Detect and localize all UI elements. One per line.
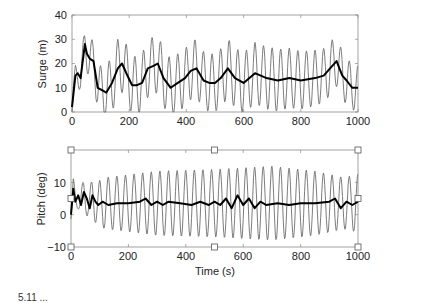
selection-handle[interactable]	[212, 147, 218, 153]
selection-handle[interactable]	[355, 147, 361, 153]
pitch-plot-frame	[71, 150, 358, 247]
surge-ytick-40: 40	[55, 9, 67, 21]
surge-xtick-400: 400	[177, 115, 195, 127]
pitch-xtick-200: 200	[119, 250, 137, 262]
surge-xtick-1000: 1000	[346, 115, 370, 127]
surge-ytick-0: 0	[61, 106, 67, 118]
pitch-xtick-0: 0	[68, 250, 74, 262]
surge-chart: 0 10 20 30 40 0 200 400 600 800 1000 Sur…	[36, 9, 370, 127]
pitch-axis-ticks	[71, 150, 358, 247]
surge-ytick-30: 30	[55, 33, 67, 45]
surge-ytick-10: 10	[55, 82, 67, 94]
surge-xtick-200: 200	[120, 115, 138, 127]
surge-series	[72, 36, 358, 112]
surge-ylabel: Surge (m)	[36, 40, 48, 89]
surge-xtick-0: 0	[69, 115, 75, 127]
pitch-xtick-400: 400	[177, 250, 195, 262]
pitch-ytick-neg10: −10	[47, 241, 66, 253]
surge-ytick-20: 20	[55, 57, 67, 69]
pitch-xtick-1000: 1000	[346, 250, 370, 262]
pitch-ytick-0: 0	[60, 209, 66, 221]
pitch-ytick-10: 10	[54, 177, 66, 189]
surge-xtick-600: 600	[235, 115, 253, 127]
selection-handle[interactable]	[355, 196, 361, 202]
figure-caption: 5.11 ...	[18, 292, 48, 303]
pitch-xtick-600: 600	[234, 250, 252, 262]
time-xlabel: Time (s)	[195, 265, 235, 277]
selection-handle[interactable]	[212, 244, 218, 250]
pitch-chart: −10 0 10 0 200 400 600 800 1000 Pitch (d…	[35, 147, 370, 277]
selection-handle[interactable]	[68, 196, 74, 202]
pitch-xtick-800: 800	[292, 250, 310, 262]
selection-handle[interactable]	[68, 147, 74, 153]
pitch-series	[71, 166, 358, 240]
surge-xtick-800: 800	[292, 115, 310, 127]
pitch-ylabel: Pitch (deg)	[35, 172, 47, 225]
